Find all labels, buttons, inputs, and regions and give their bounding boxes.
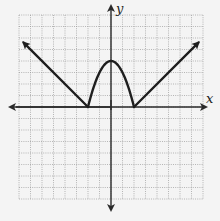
curve-ray [24, 43, 88, 107]
y-axis-label: y [115, 1, 124, 16]
curve-ray [134, 43, 198, 107]
x-axis-label: x [206, 91, 214, 106]
coordinate-graph: x y [0, 0, 220, 221]
axes: x y [10, 1, 214, 210]
